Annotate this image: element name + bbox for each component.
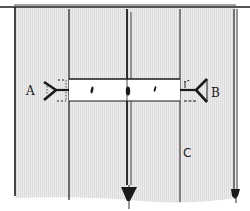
label-b: B <box>211 86 220 100</box>
bar-mark-center <box>126 87 130 96</box>
horizontal-bar <box>69 79 180 101</box>
diagram-canvas: A B C <box>0 0 250 211</box>
label-a: A <box>25 84 35 98</box>
shaded-region <box>15 8 236 203</box>
label-c: C <box>183 146 191 160</box>
